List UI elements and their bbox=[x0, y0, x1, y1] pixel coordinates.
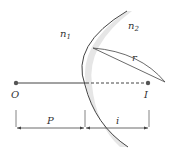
arrow-icon bbox=[80, 127, 84, 130]
image-point bbox=[146, 81, 150, 85]
label-O: O bbox=[11, 89, 19, 100]
refraction-diagram: n1 n2 r O I P i bbox=[0, 0, 173, 167]
label-n1: n1 bbox=[60, 28, 71, 41]
label-i: i bbox=[116, 115, 119, 126]
object-point bbox=[14, 81, 18, 85]
label-P: P bbox=[46, 115, 54, 126]
label-n2: n2 bbox=[128, 20, 139, 33]
radius-line bbox=[93, 48, 165, 82]
label-I: I bbox=[143, 89, 149, 100]
arrow-icon bbox=[86, 127, 90, 130]
label-r: r bbox=[132, 52, 138, 63]
arrow-icon bbox=[17, 127, 21, 130]
arrow-icon bbox=[144, 127, 148, 130]
medium-shading bbox=[85, 11, 132, 147]
